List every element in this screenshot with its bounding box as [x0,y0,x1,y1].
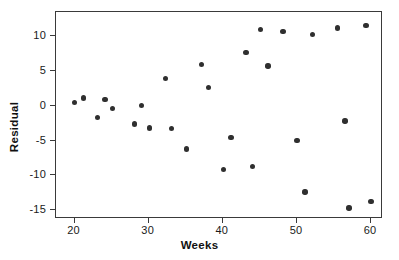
data-point [335,25,340,30]
data-point [206,85,211,90]
data-point [346,205,351,210]
data-point [81,95,86,100]
data-point [139,103,144,108]
x-axis-title: Weeks [0,239,399,251]
x-axis-tick [74,218,75,223]
data-point [221,167,226,172]
data-point [342,118,347,123]
residual-scatter-figure: 20304050601050-5-10-15 Weeks Residual [0,0,399,260]
data-point [228,135,233,140]
data-point [199,62,204,67]
y-axis-tick-label: 0 [40,99,46,111]
plot-area [55,11,382,218]
data-point [280,29,285,34]
x-axis-tick-label: 30 [141,224,154,236]
data-point [95,115,100,120]
x-axis-tick [296,218,297,223]
x-axis-tick-label: 20 [67,224,80,236]
y-axis-tick-label: -10 [30,168,47,180]
y-axis-tick [50,209,55,210]
y-axis-tick [50,174,55,175]
y-axis-tick [50,70,55,71]
data-point [302,189,307,194]
data-point [243,50,248,55]
data-point [368,199,373,204]
data-point [72,100,77,105]
x-axis-tick [370,218,371,223]
data-point [265,63,270,68]
y-axis-tick [50,140,55,141]
y-axis-tick-label: 5 [40,64,46,76]
data-point [147,125,152,130]
y-axis-tick-label: -5 [36,134,46,146]
y-axis-tick-label: -15 [30,203,47,215]
y-axis-tick [50,35,55,36]
scatter-points-layer [56,12,381,217]
x-axis-tick-label: 40 [216,224,229,236]
data-point [294,138,299,143]
x-axis-tick [148,218,149,223]
data-point [184,146,189,151]
y-axis-tick [50,105,55,106]
data-point [169,126,174,131]
data-point [250,164,255,169]
x-axis-tick-label: 60 [364,224,377,236]
data-point [102,97,107,102]
data-point [363,23,368,28]
data-point [310,32,315,37]
y-axis-title: Residual [8,87,20,167]
data-point [163,76,168,81]
x-axis-tick [222,218,223,223]
data-point [110,106,115,111]
data-point [258,27,263,32]
data-point [132,121,137,126]
x-axis-tick-label: 50 [290,224,303,236]
y-axis-tick-label: 10 [33,29,46,41]
